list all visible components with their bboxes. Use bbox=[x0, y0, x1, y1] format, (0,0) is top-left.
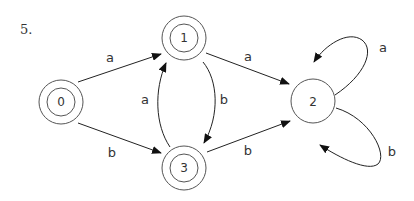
state-2: 2 bbox=[291, 79, 335, 123]
state-3-label: 3 bbox=[180, 161, 188, 175]
self-loop-2-b: b bbox=[320, 108, 396, 166]
state-1-label: 1 bbox=[180, 31, 188, 45]
edge-1-2: a bbox=[206, 49, 289, 84]
edge-1-2-label: a bbox=[244, 49, 252, 64]
edge-0-3-label: b bbox=[108, 145, 116, 160]
edge-3-1-label: a bbox=[141, 92, 149, 107]
state-0-label: 0 bbox=[57, 95, 65, 109]
state-1: 1 bbox=[162, 16, 206, 60]
edge-1-3: b bbox=[203, 62, 228, 143]
automaton-diagram: 0 1 3 2 a b a b a b bbox=[0, 0, 414, 201]
state-2-label: 2 bbox=[309, 95, 317, 109]
self-loop-2-b-label: b bbox=[388, 144, 396, 159]
edge-3-1: a bbox=[141, 63, 170, 147]
self-loop-2-a: a bbox=[314, 37, 387, 95]
state-3: 3 bbox=[162, 146, 206, 190]
edge-0-1-label: a bbox=[106, 50, 114, 65]
edge-1-3-label: b bbox=[220, 92, 228, 107]
edge-0-1: a bbox=[78, 50, 161, 82]
edge-0-3: b bbox=[78, 123, 161, 160]
edge-3-2-label: b bbox=[244, 143, 252, 158]
self-loop-2-a-label: a bbox=[379, 40, 387, 55]
state-0: 0 bbox=[39, 80, 83, 124]
edge-3-2: b bbox=[207, 121, 290, 158]
